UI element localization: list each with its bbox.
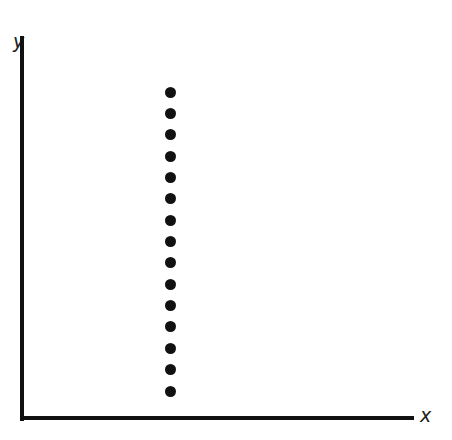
data-point <box>165 300 176 311</box>
data-point <box>165 193 176 204</box>
data-point <box>165 172 176 183</box>
data-point <box>165 151 176 162</box>
data-point <box>165 364 176 375</box>
y-axis <box>20 36 24 421</box>
data-point <box>165 343 176 354</box>
data-point <box>165 108 176 119</box>
data-point <box>165 129 176 140</box>
data-point <box>165 279 176 290</box>
scatter-chart: y x <box>0 0 452 440</box>
x-axis <box>20 416 414 420</box>
data-point <box>165 321 176 332</box>
data-point <box>165 87 176 98</box>
data-point <box>165 386 176 397</box>
data-point <box>165 236 176 247</box>
data-point <box>165 257 176 268</box>
data-point <box>165 215 176 226</box>
x-axis-label: x <box>420 404 431 426</box>
